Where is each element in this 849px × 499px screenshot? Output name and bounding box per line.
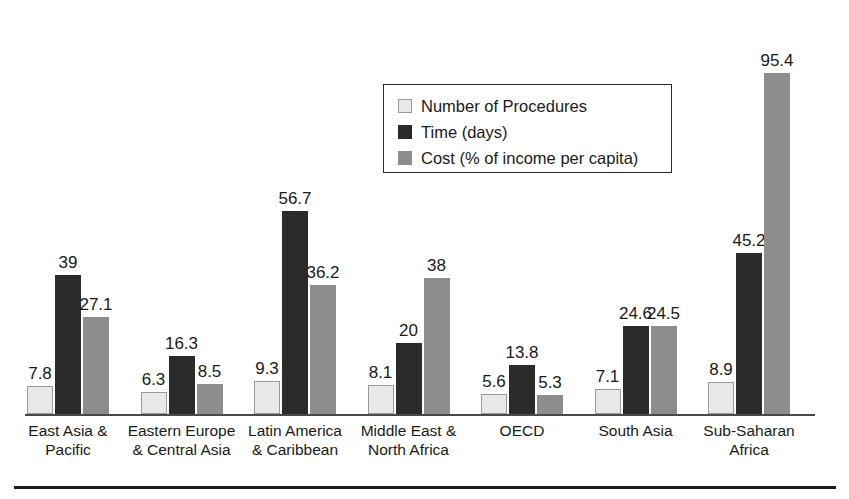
bar-value-label: 45.2 [732, 231, 765, 250]
bar-0 [27, 386, 53, 414]
bar-value-label: 39 [59, 253, 78, 272]
x-axis-baseline [25, 414, 815, 416]
bar-value-label: 7.8 [28, 364, 52, 383]
bar-column: 27.1 [83, 19, 109, 414]
bar-value-label: 5.6 [482, 372, 506, 391]
bar-column: 95.4 [764, 19, 790, 414]
bar-0 [141, 392, 167, 415]
bar-group: 8.945.295.4 [706, 19, 792, 414]
bar-value-label: 36.2 [306, 263, 339, 282]
x-axis-category-label: Sub-Saharan Africa [669, 421, 829, 459]
bar-column: 56.7 [282, 19, 308, 414]
bar-2 [424, 278, 450, 414]
bar-column: 13.8 [509, 19, 535, 414]
bar-0 [595, 389, 621, 414]
bar-value-label: 7.1 [596, 367, 620, 386]
bar-group: 8.12038 [366, 19, 452, 414]
bar-group: 9.356.736.2 [252, 19, 338, 414]
bar-0 [368, 385, 394, 414]
bar-value-label: 20 [399, 321, 418, 340]
bar-value-label: 8.1 [369, 363, 393, 382]
bar-2 [651, 326, 677, 414]
bar-column: 20 [396, 19, 422, 414]
bar-value-label: 5.3 [538, 373, 562, 392]
bar-group: 7.83927.1 [25, 19, 111, 414]
bar-column: 8.9 [708, 19, 734, 414]
bar-column: 24.5 [651, 19, 677, 414]
bar-1 [396, 343, 422, 414]
bar-1 [282, 211, 308, 414]
bar-group-bars: 8.945.295.4 [706, 19, 792, 414]
bar-2 [197, 384, 223, 414]
bar-column: 38 [424, 19, 450, 414]
bar-value-label: 8.9 [709, 360, 733, 379]
bar-column: 8.1 [368, 19, 394, 414]
bar-column: 9.3 [254, 19, 280, 414]
bar-1 [623, 326, 649, 414]
bar-column: 7.8 [27, 19, 53, 414]
bar-0 [481, 394, 507, 414]
bar-group-bars: 7.124.624.5 [593, 19, 679, 414]
bar-2 [83, 317, 109, 414]
bar-value-label: 38 [427, 256, 446, 275]
bar-group: 6.316.38.5 [139, 19, 225, 414]
bar-1 [169, 356, 195, 414]
bar-1 [55, 275, 81, 414]
bar-column: 45.2 [736, 19, 762, 414]
bar-1 [509, 365, 535, 414]
bar-2 [310, 285, 336, 414]
bar-column: 5.6 [481, 19, 507, 414]
bar-group-bars: 7.83927.1 [25, 19, 111, 414]
bar-column: 5.3 [537, 19, 563, 414]
bar-group: 5.613.85.3 [479, 19, 565, 414]
bar-column: 36.2 [310, 19, 336, 414]
bar-value-label: 27.1 [79, 295, 112, 314]
bar-column: 6.3 [141, 19, 167, 414]
bar-column: 16.3 [169, 19, 195, 414]
bar-column: 24.6 [623, 19, 649, 414]
bar-value-label: 16.3 [165, 334, 198, 353]
bar-value-label: 24.5 [647, 304, 680, 323]
bar-value-label: 56.7 [278, 189, 311, 208]
bar-group-bars: 9.356.736.2 [252, 19, 338, 414]
bar-value-label: 8.5 [198, 362, 222, 381]
bar-value-label: 95.4 [760, 51, 793, 70]
bar-column: 8.5 [197, 19, 223, 414]
bar-value-label: 9.3 [255, 359, 279, 378]
bar-1 [736, 253, 762, 414]
bar-0 [708, 382, 734, 414]
bar-group-bars: 8.12038 [366, 19, 452, 414]
bar-2 [537, 395, 563, 414]
bar-value-label: 13.8 [505, 343, 538, 362]
bar-group-bars: 6.316.38.5 [139, 19, 225, 414]
footer-rule [14, 486, 836, 489]
bar-group-bars: 5.613.85.3 [479, 19, 565, 414]
bar-column: 39 [55, 19, 81, 414]
bar-value-label: 6.3 [142, 370, 166, 389]
bar-0 [254, 381, 280, 414]
bar-column: 7.1 [595, 19, 621, 414]
bar-group: 7.124.624.5 [593, 19, 679, 414]
bar-chart: Number of Procedures Time (days) Cost (%… [0, 0, 849, 499]
bar-2 [764, 73, 790, 414]
